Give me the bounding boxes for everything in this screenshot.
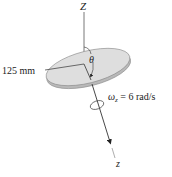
radius-label: 125 mm (2, 65, 35, 76)
disk-diagram: Z 125 mm θ ωz = 6 rad/s z (0, 0, 172, 177)
omega-label: ωz = 6 rad/s (108, 91, 155, 104)
axis-top-label: Z (80, 0, 87, 12)
rotation-icon (89, 99, 105, 111)
z-axis-dash (112, 148, 115, 158)
theta-label: θ (89, 54, 94, 65)
axis-bottom-label: z (115, 158, 120, 169)
